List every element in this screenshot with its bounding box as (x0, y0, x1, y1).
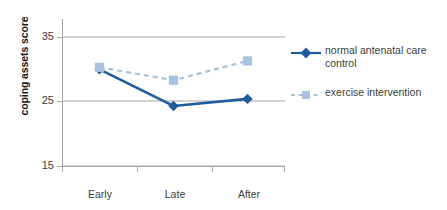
x-tick-after-line1: After (238, 188, 260, 200)
x-tick-late-line1: Late (165, 188, 185, 200)
data-point-marker[interactable] (95, 63, 104, 72)
legend-label-control: normal antenatal care control (325, 44, 445, 69)
data-point-marker[interactable] (243, 56, 252, 65)
y-axis-title: coping assets score (18, 0, 30, 136)
legend-control-line2: control (325, 57, 357, 69)
legend-item-intervention[interactable]: exercise intervention (291, 86, 443, 110)
y-tick-label-15: 15 (30, 160, 54, 171)
legend-item-control[interactable]: normal antenatal care control (291, 44, 443, 68)
x-tick-early-line1: Early (88, 188, 112, 200)
data-point-marker[interactable] (242, 94, 252, 104)
series-intervention (95, 56, 252, 84)
data-point-marker[interactable] (168, 101, 178, 111)
series-line (100, 69, 248, 106)
legend-intervention-line1: exercise intervention (325, 86, 421, 98)
y-tick-label-25: 25 (30, 95, 54, 106)
y-axis-ticks (57, 38, 62, 167)
chart-figure: coping assets score 35 25 15 Early pregn… (0, 0, 447, 210)
x-tick-label-early-pregnancy: Early pregnancy (62, 175, 138, 210)
x-tick-label-late-pregnancy: Late pregnancy (137, 175, 213, 210)
legend-key-control-diamond-icon (291, 45, 321, 57)
x-tick-label-after-pregnancy: After pregnancy (211, 175, 287, 210)
data-point-marker[interactable] (169, 76, 178, 85)
y-tick-label-35-wrap: 35 (30, 31, 54, 43)
data-series-layer (94, 56, 252, 111)
y-tick-label-25-wrap: 25 (30, 95, 54, 107)
chart-legend: normal antenatal care control exercise i… (291, 44, 443, 124)
legend-key-intervention-square-icon (291, 87, 321, 99)
legend-label-intervention: exercise intervention (325, 86, 445, 99)
y-tick-label-35: 35 (30, 31, 54, 42)
y-tick-label-15-wrap: 15 (30, 160, 54, 172)
legend-control-line1: normal antenatal care (325, 44, 427, 56)
